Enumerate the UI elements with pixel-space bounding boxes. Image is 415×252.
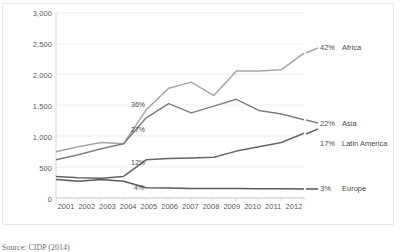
series-line-latin-america [56,133,304,178]
x-axis-ticks: 2001 2002 2003 2004 2005 2006 2007 2008 … [56,203,304,217]
legend-pct-asia: 22% [320,120,342,128]
legend-item-africa: 42%Africa [320,44,361,52]
source-note: Source: CIDP (2014) [2,243,70,252]
x-axis-tick: 2010 [242,203,262,217]
legend-name-asia: Asia [342,120,357,128]
legend-name-latin-america: Latin America [342,140,387,148]
x-axis-tick: 2003 [97,203,117,217]
x-axis-tick: 2007 [180,203,200,217]
legend-dash-latin-america [306,129,318,134]
legend-name-africa: Africa [342,44,361,52]
series-line-asia [56,99,304,160]
legend-item-asia: 22%Asia [320,120,357,128]
x-axis-tick: 2008 [201,203,221,217]
chart-figure: 3,000 2,500 2,000 1,500 1,000 500 0 [0,0,415,252]
legend-name-europe: Europe [342,185,366,193]
inline-label-latin-america: 12% [131,159,145,166]
x-axis-tick: 2006 [160,203,180,217]
x-axis-tick: 2005 [139,203,159,217]
legend-pct-africa: 42% [320,44,342,52]
legend-dash-asia [306,120,318,123]
x-axis-tick: 2009 [222,203,242,217]
series-line-africa [56,53,304,152]
legend-pct-europe: 3% [320,185,342,193]
series-line-europe [56,180,304,190]
x-axis-tick: 2001 [56,203,76,217]
x-axis-tick: 2004 [118,203,138,217]
inline-label-africa: 36% [131,101,145,108]
x-axis-tick: 2012 [284,203,304,217]
legend-item-latin-america: 17%Latin America [320,140,387,148]
legend-pct-latin-america: 17% [320,140,342,148]
x-axis-tick: 2002 [77,203,97,217]
legend-dash-africa [306,48,318,53]
inline-label-europe: 4% [134,184,144,191]
legend-connector-lines [306,48,318,189]
x-axis-tick: 2011 [263,203,283,217]
legend-item-europe: 3%Europe [320,185,366,193]
inline-label-asia: 27% [131,126,145,133]
